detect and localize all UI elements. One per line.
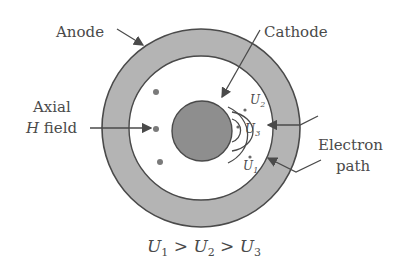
axial-label-line1: Axial [32, 98, 71, 116]
magnetron-diagram: U2 U3 U1 Anode Cathode Axial H field Ele… [0, 0, 412, 264]
voltage-inequality: U1 > U2 > U3 [147, 236, 261, 259]
anode-arrow [117, 29, 143, 45]
axial-label-line2: H field [25, 119, 78, 137]
cathode-label: Cathode [264, 23, 328, 41]
anode-label: Anode [55, 23, 104, 41]
cathode [172, 101, 232, 161]
electron-label-line2: path [336, 157, 371, 175]
electron-label-line1: Electron [318, 136, 383, 154]
